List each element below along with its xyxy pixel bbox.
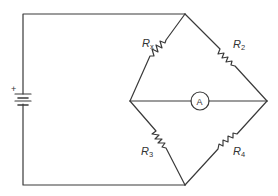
battery-icon: + [11,84,31,105]
resistor-r2: R2 [185,14,267,101]
resistor-r4: R4 [185,101,267,185]
resistor-r4-label: R4 [233,145,245,159]
ammeter-label: A [197,97,203,107]
resistor-r2-label: R2 [233,38,245,52]
resistor-r3-label: R3 [141,145,153,159]
resistor-rx-label: Rx [142,37,154,51]
top-wire [23,14,185,94]
resistor-r3: R3 [130,101,185,185]
bottom-wire [23,104,185,185]
circuit-svg: + Rx R2 A R3 R4 [0,0,278,196]
ammeter-icon: A [191,92,209,110]
resistor-rx: Rx [130,14,185,101]
circuit-diagram: + Rx R2 A R3 R4 [0,0,278,196]
battery-plus-label: + [11,84,16,94]
